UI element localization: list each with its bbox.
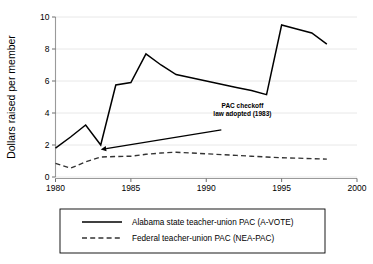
y-tick-label-2: 2	[45, 140, 50, 150]
y-tick-label-4: 4	[45, 108, 50, 118]
y-tick-label-6: 6	[45, 76, 50, 86]
x-tick-label-1990: 1990	[197, 183, 216, 193]
y-axis-label: Dollars raised per member	[5, 35, 17, 159]
x-tick-label-2000: 2000	[348, 183, 367, 193]
y-axis: 0246810	[40, 12, 55, 182]
legend-border	[60, 209, 325, 253]
pac-checkoff-note-arrow-head	[101, 146, 107, 151]
pac-checkoff-note-line-1: PAC checkoff	[222, 102, 265, 109]
pac-checkoff-note-arrow-shaft	[106, 130, 221, 149]
legend-label-1: Alabama state teacher-union PAC (A-VOTE)	[132, 218, 294, 227]
x-tick-label-1995: 1995	[272, 183, 291, 193]
line-chart: 0246810 19801985199019952000 PAC checkof…	[0, 0, 373, 264]
legend-label-2: Federal teacher-union PAC (NEA-PAC)	[132, 234, 274, 243]
chart-annotations: PAC checkofflaw adopted (1983)	[101, 102, 272, 151]
y-tick-label-0: 0	[45, 172, 50, 182]
y-tick-label-8: 8	[45, 44, 50, 54]
gridlines	[56, 17, 358, 177]
y-tick-label-10: 10	[40, 12, 50, 22]
pac-checkoff-note-line-2: law adopted (1983)	[213, 110, 271, 118]
chart-figure: 0246810 19801985199019952000 PAC checkof…	[0, 0, 373, 264]
series-line-1	[56, 25, 327, 148]
x-axis: 19801985199019952000	[46, 179, 367, 194]
x-tick-label-1985: 1985	[121, 183, 140, 193]
chart-legend: Alabama state teacher-union PAC (A-VOTE)…	[60, 209, 325, 253]
data-series	[56, 25, 327, 168]
x-tick-label-1980: 1980	[46, 183, 65, 193]
pac-checkoff-note-text: PAC checkofflaw adopted (1983)	[213, 102, 271, 118]
series-line-2	[56, 152, 327, 168]
